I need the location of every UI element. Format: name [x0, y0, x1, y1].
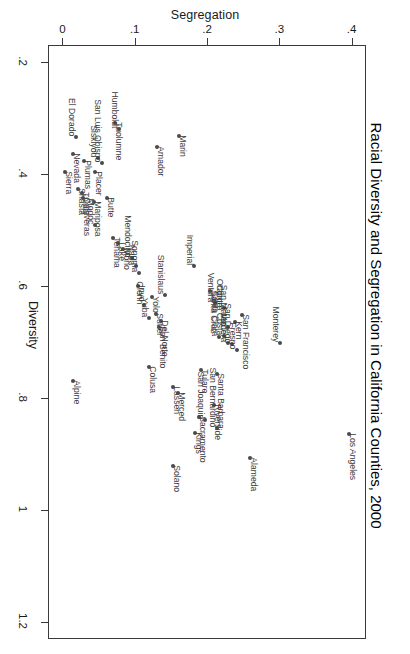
point-label: Humboldt	[111, 91, 120, 128]
point-label: Monterey	[272, 306, 281, 342]
segregation-tick-label: 0	[59, 23, 65, 35]
diversity-axis-title: Diversity	[26, 28, 40, 622]
point-label: Imperial	[185, 234, 194, 265]
segregation-tick-mark	[207, 38, 208, 45]
segregation-tick-mark	[279, 38, 280, 45]
point-label: San Francisco	[242, 314, 251, 369]
point-label: Nevada	[73, 153, 82, 183]
point-label: Solano	[173, 466, 182, 493]
point-label: San Joaquin	[197, 372, 206, 420]
diversity-tick-mark	[41, 62, 48, 63]
diversity-tick-mark	[41, 286, 48, 287]
segregation-axis-title: Segregation	[0, 8, 410, 22]
diversity-tick-mark	[41, 398, 48, 399]
point-label: Modoc	[86, 199, 95, 225]
point-label: Kings	[195, 432, 204, 454]
page-title: Racial Diversity and Segregation in Cali…	[368, 26, 385, 626]
point-label: Alpine	[73, 380, 82, 404]
point-label: Los Angeles	[349, 433, 358, 480]
point-label: Marin	[179, 135, 188, 157]
point-label: Butte	[107, 198, 116, 218]
segregation-tick-label: .2	[202, 23, 212, 35]
diversity-tick-mark	[41, 510, 48, 511]
point-label: Merced	[177, 393, 186, 422]
point-label: Plumas	[83, 160, 92, 189]
point-label: San Luis Obispo	[93, 99, 102, 162]
point-label: Stanislaus	[156, 255, 165, 295]
chart-page: Segregation 0.1.2.3.4 .2.4.6.811.2 Sierr…	[0, 0, 410, 654]
segregation-tick-label: .4	[347, 23, 357, 35]
segregation-tick-label: .3	[274, 23, 284, 35]
point-label: Alameda	[250, 457, 259, 491]
segregation-tick-mark	[135, 38, 136, 45]
point-label: Yuba	[140, 297, 149, 317]
point-label: Amador	[157, 146, 166, 176]
segregation-tick-mark	[62, 38, 63, 45]
point-label: El Dorado	[68, 98, 77, 136]
point-label: Colusa	[148, 366, 157, 393]
point-label: San Bernardino	[208, 368, 217, 428]
segregation-tick-mark	[352, 38, 353, 45]
diversity-tick-mark	[41, 174, 48, 175]
point-label: Sonoma	[130, 240, 139, 272]
point-label: Yolo	[151, 296, 160, 312]
segregation-tick-label: .1	[130, 23, 140, 35]
point-label: Del Norte	[161, 320, 170, 356]
plot-area: SierraShastaTrinityCalaverasNevadaPlumas…	[48, 45, 366, 639]
diversity-tick-mark	[41, 622, 48, 623]
point-label: Placer	[94, 171, 103, 195]
